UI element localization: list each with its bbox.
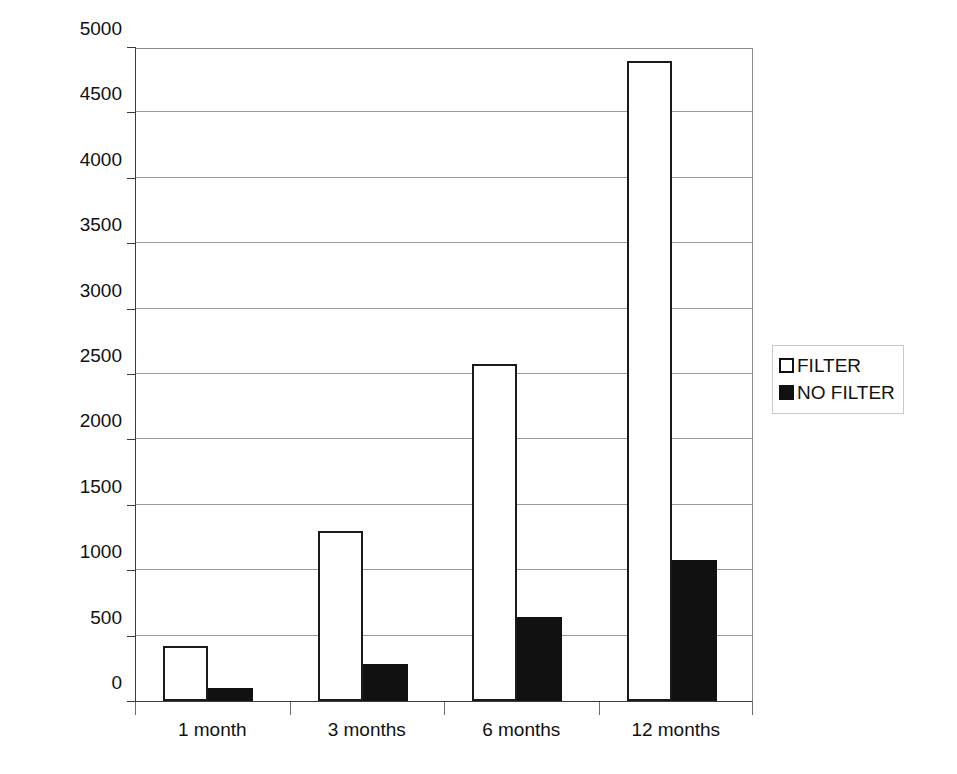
x-axis-tick-label: 3 months — [290, 718, 445, 742]
legend: FILTER NO FILTER — [772, 345, 904, 414]
bar — [517, 617, 562, 701]
bar — [363, 664, 408, 701]
x-axis-tick-mark — [290, 702, 291, 715]
x-axis-tick-label: 12 months — [599, 718, 754, 742]
x-axis-tick-marks — [135, 702, 753, 716]
legend-label: FILTER — [797, 356, 861, 375]
x-axis-tick-mark — [599, 702, 600, 715]
legend-swatch-filled-square-icon — [779, 385, 794, 400]
bar — [627, 61, 672, 701]
bar — [672, 560, 717, 701]
bar — [208, 688, 253, 701]
bar — [163, 646, 208, 701]
y-axis-tick-label: 5000 — [2, 19, 122, 38]
legend-label: NO FILTER — [797, 383, 895, 402]
plot-area — [135, 48, 753, 702]
x-axis-tick-mark — [135, 702, 136, 715]
x-axis-tick-labels: 1 month3 months6 months12 months — [135, 718, 753, 748]
legend-item-filter: FILTER — [779, 352, 895, 379]
x-axis-tick-label: 6 months — [444, 718, 599, 742]
x-axis-tick-mark — [752, 702, 753, 715]
bar — [472, 364, 517, 701]
y-axis-tick-marks — [0, 48, 140, 702]
bar-chart: Equity ($) 05001000150020002500300035004… — [0, 0, 957, 774]
x-axis-tick-mark — [444, 702, 445, 715]
legend-swatch-hollow-square-icon — [779, 358, 794, 373]
legend-item-no-filter: NO FILTER — [779, 379, 895, 406]
x-axis-tick-label: 1 month — [135, 718, 290, 742]
bar — [318, 531, 363, 701]
